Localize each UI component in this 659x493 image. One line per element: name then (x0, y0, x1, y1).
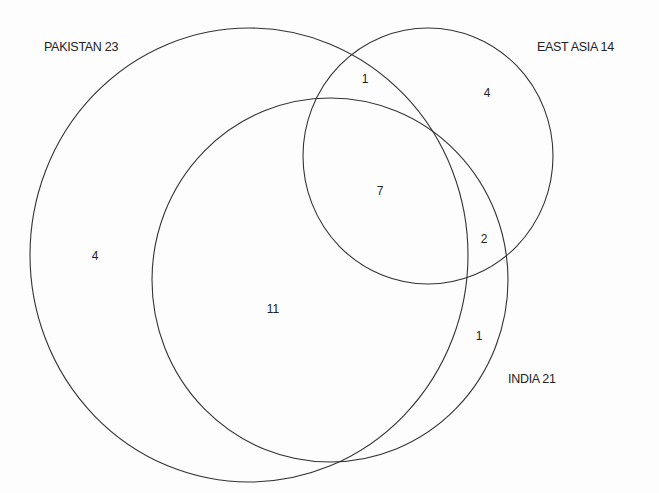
region-east-asia-india: 2 (481, 232, 488, 246)
east-asia-circle (303, 28, 553, 284)
venn-circles (0, 0, 659, 493)
region-pakistan-only: 4 (92, 249, 99, 263)
india-circle (152, 98, 508, 462)
region-all-three: 7 (377, 184, 384, 198)
venn-diagram: PAKISTAN 23 EAST ASIA 14 INDIA 21 4 1 4 … (0, 0, 659, 493)
india-set-label: INDIA 21 (508, 372, 556, 386)
region-east-asia-only: 4 (484, 86, 491, 100)
pakistan-set-label: PAKISTAN 23 (44, 40, 118, 54)
region-pakistan-east-asia: 1 (362, 72, 369, 86)
region-india-only: 1 (476, 329, 483, 343)
east-asia-set-label: EAST ASIA 14 (537, 40, 614, 54)
region-pakistan-india: 11 (267, 302, 279, 316)
